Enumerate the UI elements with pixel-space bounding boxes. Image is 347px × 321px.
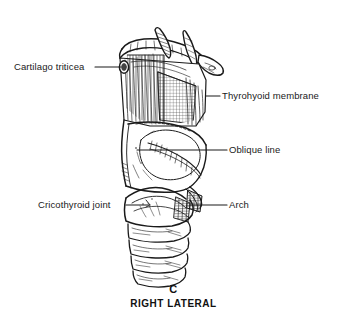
thyrohyoid-membrane-sheet: [120, 54, 206, 127]
view-caption: RIGHT LATERAL: [0, 298, 347, 309]
oblique-line-ridge: [148, 141, 201, 178]
label-thyrohyoid-membrane: Thyrohyoid membrane: [222, 91, 319, 101]
cricoid-cartilage: [125, 187, 194, 226]
larynx-lateral-drawing: [0, 0, 347, 321]
thyroid-lamina: [122, 120, 207, 192]
panel-letter: C: [0, 283, 347, 295]
anatomical-figure: Cartilago triticea Thyrohyoid membrane O…: [0, 0, 347, 321]
label-oblique-line: Oblique line: [229, 145, 280, 155]
label-cartilago-triticea: Cartilago triticea: [14, 62, 84, 72]
superior-horn-thyroid-left: [155, 28, 171, 58]
trachea: [128, 222, 190, 287]
label-arch: Arch: [229, 200, 249, 210]
label-cricothyroid-joint: Cricothyroid joint: [38, 200, 111, 210]
tracheal-ring-2: [129, 238, 189, 258]
